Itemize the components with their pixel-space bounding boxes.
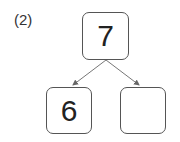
part-box-right-empty[interactable] bbox=[120, 87, 166, 134]
arrow-left bbox=[73, 60, 106, 85]
whole-box: 7 bbox=[82, 12, 129, 60]
arrow-right bbox=[106, 60, 139, 85]
part-box-left: 6 bbox=[46, 87, 92, 134]
